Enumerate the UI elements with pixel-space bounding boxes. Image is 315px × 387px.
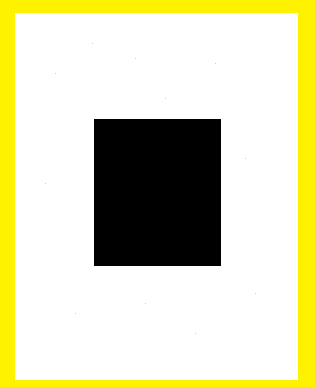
yellow-frame xyxy=(0,0,315,387)
black-rectangle xyxy=(94,119,221,266)
